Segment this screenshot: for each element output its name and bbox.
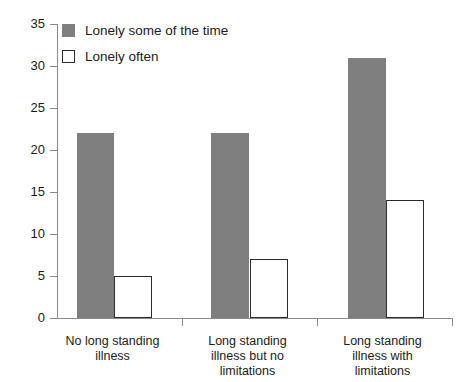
y-axis-tick-label: 10: [14, 227, 45, 240]
y-axis-tick: [50, 24, 57, 25]
y-axis-tick: [50, 150, 57, 151]
x-axis-group-tick: [317, 318, 318, 326]
y-axis-tick: [50, 108, 57, 109]
y-axis-tick: [50, 192, 57, 193]
y-axis-tick-label: 20: [14, 143, 45, 156]
category-label-line: No long standing: [40, 334, 185, 349]
x-axis-category-label: Long standingillness but nolimitations: [175, 334, 320, 379]
y-axis-tick: [50, 318, 57, 319]
chart-legend: Lonely some of the time Lonely often: [62, 19, 228, 71]
y-axis-tick-label: 5: [14, 269, 45, 282]
x-axis-group-tick: [182, 318, 183, 326]
category-label-line: illness but no: [175, 349, 320, 364]
legend-item-lonely-often[interactable]: Lonely often: [62, 45, 228, 67]
y-axis-tick-label: 25: [14, 101, 45, 114]
filled-square-icon: [62, 24, 75, 37]
legend-label: Lonely some of the time: [85, 23, 228, 38]
bar-lonely-some-of-the-time: [77, 133, 114, 318]
legend-label: Lonely often: [85, 49, 159, 64]
category-label-line: limitations: [175, 364, 320, 379]
bar-lonely-some-of-the-time: [348, 58, 386, 318]
x-axis-category-label: Long standingillness withlimitations: [310, 334, 455, 379]
x-axis-category-label: No long standingillness: [40, 334, 185, 364]
y-axis-tick: [50, 66, 57, 67]
category-label-line: illness with: [310, 349, 455, 364]
y-axis-tick: [50, 276, 57, 277]
category-label-line: illness: [40, 349, 185, 364]
outlined-square-icon: [62, 50, 75, 63]
category-label-line: Long standing: [175, 334, 320, 349]
y-axis-tick-label: 30: [14, 59, 45, 72]
x-axis-group-tick: [452, 318, 453, 326]
x-axis-line: [57, 318, 453, 319]
y-axis-tick-label: 15: [14, 185, 45, 198]
category-label-line: limitations: [310, 364, 455, 379]
y-axis-tick: [50, 234, 57, 235]
legend-item-lonely-some-of-the-time[interactable]: Lonely some of the time: [62, 19, 228, 41]
bar-lonely-often: [386, 200, 424, 318]
y-axis-tick-label: 35: [14, 17, 45, 30]
category-label-line: Long standing: [310, 334, 455, 349]
bar-chart: 05101520253035 No long standingillnessLo…: [0, 0, 470, 382]
bar-lonely-some-of-the-time: [211, 133, 249, 318]
bar-lonely-often: [250, 259, 288, 318]
bar-lonely-often: [114, 276, 152, 318]
y-axis-tick-label: 0: [14, 311, 45, 324]
